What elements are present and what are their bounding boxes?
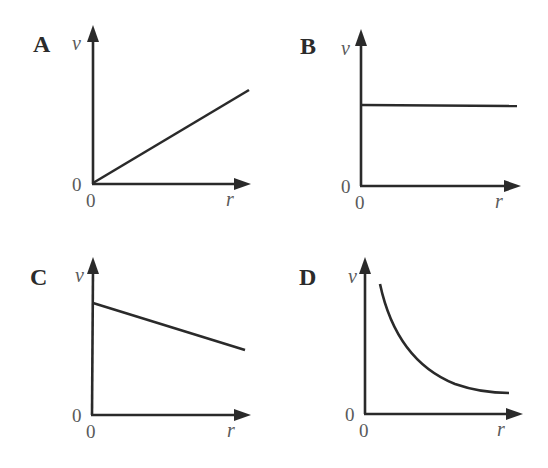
x-axis-arrow-icon xyxy=(234,409,251,421)
origin-y-zero-label: 0 xyxy=(341,176,351,197)
y-axis-arrow-icon xyxy=(355,29,367,46)
four-velocity-radius-graphs: A v 0 0 r B v 0 0 r C v 0 0 r D xyxy=(0,0,548,468)
data-line xyxy=(362,105,517,106)
panel-b: B v 0 0 r xyxy=(300,29,521,213)
y-axis xyxy=(92,270,93,415)
data-line xyxy=(93,303,245,350)
panel-letter-a: A xyxy=(33,31,51,57)
data-line xyxy=(93,90,249,183)
origin-x-zero-label: 0 xyxy=(86,421,96,442)
x-axis-arrow-icon xyxy=(504,180,521,192)
x-axis-label: r xyxy=(227,419,235,441)
y-axis-label: v xyxy=(348,265,357,287)
y-axis-label: v xyxy=(341,37,350,59)
origin-x-zero-label: 0 xyxy=(86,190,96,211)
data-curve xyxy=(380,284,509,393)
y-axis-label: v xyxy=(75,264,84,286)
x-axis-arrow-icon xyxy=(234,178,251,190)
x-axis-label: r xyxy=(226,188,234,210)
x-axis-arrow-icon xyxy=(506,408,523,420)
y-axis-arrow-icon xyxy=(359,257,371,274)
panel-letter-b: B xyxy=(300,33,316,59)
y-axis-label: v xyxy=(72,32,81,54)
origin-x-zero-label: 0 xyxy=(359,420,369,441)
origin-y-zero-label: 0 xyxy=(72,405,82,426)
panel-c: C v 0 0 r xyxy=(30,257,251,442)
origin-y-zero-label: 0 xyxy=(72,174,82,195)
origin-x-zero-label: 0 xyxy=(355,192,365,213)
panel-letter-d: D xyxy=(299,264,316,290)
panel-d: D v 0 0 r xyxy=(299,257,523,441)
y-axis-arrow-icon xyxy=(87,257,99,274)
panel-a: A v 0 0 r xyxy=(33,25,251,211)
y-axis-arrow-icon xyxy=(87,25,99,42)
x-axis-label: r xyxy=(495,190,503,212)
origin-y-zero-label: 0 xyxy=(345,404,355,425)
x-axis-label: r xyxy=(497,418,505,440)
panel-letter-c: C xyxy=(30,264,47,290)
